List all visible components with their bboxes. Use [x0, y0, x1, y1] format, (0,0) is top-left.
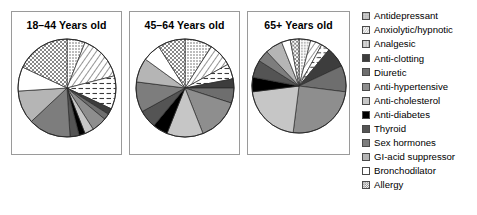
legend-item-label: Bronchodilator	[374, 166, 436, 176]
legend-swatch-bronchodilator	[362, 167, 370, 175]
pie-chart-65-plus	[249, 36, 349, 136]
legend-item-anti-diabetes[interactable]: Anti-diabetes	[362, 108, 477, 122]
legend-item-gi-acid[interactable]: GI-acid suppressor	[362, 150, 477, 164]
legend-item-label: Anti-hypertensive	[374, 82, 448, 92]
panel-title: 45–64 Years old	[130, 19, 239, 31]
legend-swatch-thyroid	[362, 125, 370, 133]
legend-item-allergy[interactable]: Allergy	[362, 178, 477, 192]
legend-swatch-anti-hypertensive	[362, 83, 370, 91]
legend-item-label: Sex hormones	[374, 138, 436, 148]
legend-item-label: Analgesic	[374, 39, 416, 49]
legend-item-label: Anti-clotting	[374, 54, 424, 64]
pie-holder	[12, 36, 121, 148]
legend-item-anti-cholesterol[interactable]: Anti-cholesterol	[362, 94, 477, 108]
panel-title: 65+ Years old	[248, 19, 349, 31]
legend-swatch-anti-clotting	[362, 54, 370, 62]
legend-item-label: Anti-diabetes	[374, 110, 430, 120]
legend-swatch-anti-diabetes	[362, 111, 370, 119]
legend-item-antidepressant[interactable]: Antidepressant	[362, 9, 477, 23]
legend-item-label: Allergy	[374, 180, 403, 190]
legend-swatch-sex-hormones	[362, 139, 370, 147]
legend-item-label: Antidepressant	[374, 11, 438, 21]
pie-holder	[248, 36, 349, 148]
chart-panel-18-44: 18–44 Years old	[11, 11, 122, 155]
legend-item-bronchodilator[interactable]: Bronchodilator	[362, 164, 477, 178]
legend-item-label: Anxiolytic/hypnotic	[374, 25, 453, 35]
pie-chart-18-44	[15, 36, 119, 140]
legend-swatch-analgesic	[362, 40, 370, 48]
pie-slice-anti-hypertensive[interactable]	[293, 86, 346, 133]
legend-swatch-anxiolytic	[362, 26, 370, 34]
legend-item-diuretic[interactable]: Diuretic	[362, 65, 477, 79]
legend-item-label: Diuretic	[374, 68, 407, 78]
legend-item-label: Anti-cholesterol	[374, 96, 440, 106]
legend-swatch-antidepressant	[362, 12, 370, 20]
legend-swatch-diuretic	[362, 68, 370, 76]
legend-item-anti-clotting[interactable]: Anti-clotting	[362, 51, 477, 65]
legend-item-thyroid[interactable]: Thyroid	[362, 122, 477, 136]
legend-swatch-gi-acid	[362, 153, 370, 161]
legend-item-analgesic[interactable]: Analgesic	[362, 37, 477, 51]
pie-slice-anti-cholesterol[interactable]	[252, 86, 299, 133]
legend: AntidepressantAnxiolytic/hypnoticAnalges…	[362, 9, 477, 192]
panel-title: 18–44 Years old	[12, 19, 121, 31]
legend-item-sex-hormones[interactable]: Sex hormones	[362, 136, 477, 150]
legend-swatch-allergy	[362, 181, 370, 189]
legend-swatch-anti-cholesterol	[362, 97, 370, 105]
legend-item-anti-hypertensive[interactable]: Anti-hypertensive	[362, 79, 477, 93]
legend-item-anxiolytic[interactable]: Anxiolytic/hypnotic	[362, 23, 477, 37]
pie-holder	[130, 36, 239, 148]
legend-item-label: Thyroid	[374, 124, 406, 134]
pie-chart-45-64	[133, 36, 237, 140]
chart-panel-45-64: 45–64 Years old	[129, 11, 240, 155]
legend-item-label: GI-acid suppressor	[374, 152, 455, 162]
chart-panel-65-plus: 65+ Years old	[247, 11, 350, 155]
pie-chart-figure: 18–44 Years old 45–64 Years old 65+ Year…	[0, 0, 477, 215]
